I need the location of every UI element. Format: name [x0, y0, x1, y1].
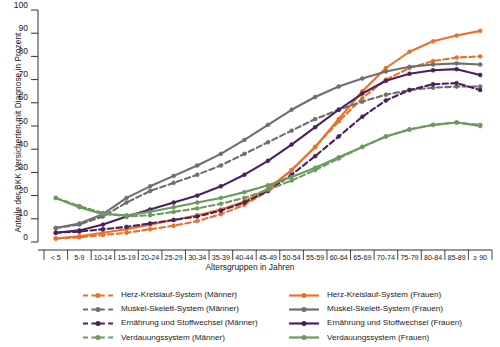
legend-label: Herz-Kreislauf-System (Frauen) — [327, 291, 441, 299]
x-tick-label: 40-44 — [235, 254, 253, 262]
series-marker — [54, 226, 58, 230]
series-marker — [431, 123, 435, 127]
y-tick-label: 0 — [23, 232, 28, 242]
legend-label: Ernährung und Stoffwechsel (Männer) — [121, 319, 258, 327]
series-marker — [172, 218, 176, 222]
series-marker — [408, 88, 412, 92]
series-marker — [313, 145, 317, 149]
x-tick-label: 10-14 — [94, 254, 112, 262]
legend-label: Muskel-Skelett-System (Männer) — [121, 305, 239, 313]
series-marker — [195, 201, 199, 205]
y-tick-label: 20 — [18, 185, 28, 195]
series-marker — [384, 70, 388, 74]
series-marker — [219, 163, 223, 167]
series-marker — [360, 76, 364, 80]
series-line — [56, 83, 480, 233]
legend-item[interactable]: Verdauungssystem (Frauen) — [288, 331, 462, 345]
series-marker — [195, 219, 199, 223]
series-marker — [242, 152, 246, 156]
legend-label: Muskel-Skelett-System (Frauen) — [327, 305, 443, 313]
series-marker — [101, 227, 105, 231]
series-marker — [172, 224, 176, 228]
series-marker — [242, 138, 246, 142]
series-marker — [172, 201, 176, 205]
x-tick-label: < 5 — [51, 254, 61, 262]
series-marker — [455, 61, 459, 65]
series-marker — [219, 152, 223, 156]
legend-swatch-icon — [82, 332, 114, 343]
series-marker — [148, 221, 152, 225]
x-tick-label: 85-89 — [448, 254, 466, 262]
series-marker — [54, 237, 58, 241]
legend-swatch-icon — [82, 290, 114, 301]
series-marker — [360, 115, 364, 119]
series-marker — [77, 234, 81, 238]
y-tick-label: 40 — [18, 139, 28, 149]
series-marker — [125, 225, 129, 229]
legend-label: Verdauungssystem (Frauen) — [327, 334, 429, 342]
y-tick-label: 10 — [18, 208, 28, 218]
y-tick-label: 60 — [18, 92, 28, 102]
series-marker — [290, 143, 294, 147]
series-marker — [172, 181, 176, 185]
legend-item[interactable]: Verdauungssystem (Männer) — [82, 331, 258, 345]
legend-item[interactable]: Herz-Kreislauf-System (Männer) — [82, 288, 258, 302]
series-marker — [360, 92, 364, 96]
series-marker — [384, 93, 388, 97]
series-marker — [195, 215, 199, 219]
y-tick-label: 30 — [18, 162, 28, 172]
series-marker — [195, 194, 199, 198]
series-marker — [195, 163, 199, 167]
x-tick-label: 55-59 — [306, 254, 324, 262]
legend-item[interactable]: Ernährung und Stoffwechsel (Frauen) — [288, 316, 462, 330]
legend-item[interactable]: Herz-Kreislauf-System (Frauen) — [288, 288, 462, 302]
series-marker — [337, 134, 341, 138]
x-tick-label: ≥ 90 — [473, 254, 487, 262]
series-marker — [125, 196, 129, 200]
series-marker — [337, 155, 341, 159]
series-marker — [455, 81, 459, 85]
series-marker — [242, 190, 246, 194]
series-marker — [101, 212, 105, 216]
series-marker — [195, 173, 199, 177]
series-marker — [478, 73, 482, 77]
x-tick-label: 25-29 — [165, 254, 183, 262]
legend-item[interactable]: Muskel-Skelett-System (Frauen) — [288, 302, 462, 316]
chart-container: Anteile der BKK Versicherten mit Diagnos… — [0, 0, 500, 347]
x-tick-label: 20-24 — [141, 254, 159, 262]
series-marker — [337, 85, 341, 89]
x-tick-label: 35-39 — [212, 254, 230, 262]
series-marker — [290, 108, 294, 112]
series-marker — [408, 50, 412, 54]
legend-swatch-icon — [288, 304, 320, 315]
x-tick-label: 75-79 — [400, 254, 418, 262]
series-marker — [455, 121, 459, 125]
line-chart-svg: 0102030405060708090100< 55-910-1415-1920… — [0, 0, 500, 290]
series-marker — [478, 124, 482, 128]
series-marker — [148, 189, 152, 193]
series-marker — [172, 210, 176, 214]
series-marker — [148, 210, 152, 214]
series-marker — [313, 166, 317, 170]
series-marker — [242, 173, 246, 177]
series-marker — [77, 228, 81, 232]
series-marker — [242, 196, 246, 200]
chart-legend: Herz-Kreislauf-System (Männer)Muskel-Ske… — [0, 288, 500, 347]
series-marker — [54, 196, 58, 200]
y-tick-label: 100 — [14, 0, 29, 10]
series-marker — [384, 79, 388, 83]
x-tick-label: 80-84 — [424, 254, 442, 262]
series-marker — [148, 227, 152, 231]
legend-column: Herz-Kreislauf-System (Männer)Muskel-Ske… — [82, 288, 258, 345]
series-marker — [266, 123, 270, 127]
x-tick-label: 5-9 — [74, 254, 84, 262]
legend-swatch-icon — [288, 332, 320, 343]
series-marker — [337, 117, 341, 121]
series-marker — [478, 88, 482, 92]
series-marker — [101, 223, 105, 227]
series-marker — [290, 129, 294, 133]
legend-item[interactable]: Ernährung und Stoffwechsel (Männer) — [82, 316, 258, 330]
series-marker — [148, 184, 152, 188]
series-marker — [431, 63, 435, 67]
legend-item[interactable]: Muskel-Skelett-System (Männer) — [82, 302, 258, 316]
